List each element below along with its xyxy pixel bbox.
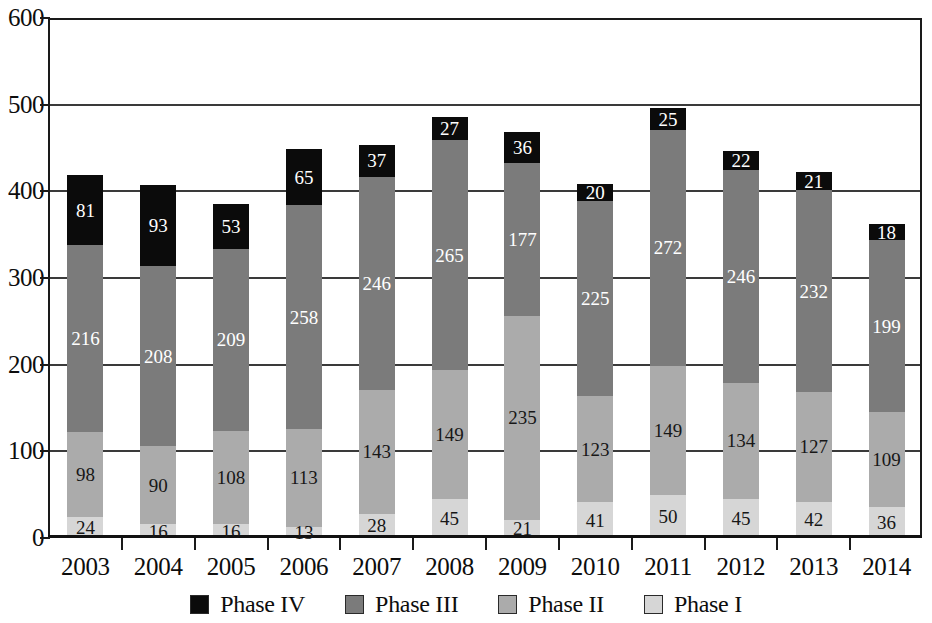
- y-tick-label: 600: [0, 5, 44, 30]
- bar-group[interactable]: 6525811313: [286, 149, 322, 538]
- bar-group[interactable]: 3724614328: [359, 145, 395, 538]
- bar-group[interactable]: 2527214950: [650, 108, 686, 538]
- bar-segment[interactable]: 41: [577, 502, 613, 538]
- bar-segment[interactable]: 27: [432, 117, 468, 140]
- y-tick-mark: [40, 104, 50, 106]
- bar-segment-value: 36: [877, 513, 896, 532]
- bar-segment-value: 22: [731, 151, 750, 170]
- bar-segment[interactable]: 216: [67, 245, 103, 432]
- bar-segment[interactable]: 134: [723, 383, 759, 499]
- legend-swatch: [190, 595, 209, 614]
- x-tick-mark: [631, 538, 633, 550]
- bar-segment[interactable]: 45: [723, 499, 759, 538]
- bar-segment[interactable]: 90: [140, 446, 176, 524]
- chart-legend: Phase IVPhase IIIPhase IIPhase I: [0, 588, 932, 620]
- plot-area: 8121698249320890165320910816652581131337…: [48, 18, 922, 538]
- legend-swatch: [498, 595, 517, 614]
- bar-segment[interactable]: 21: [796, 172, 832, 190]
- bar-segment-value: 232: [800, 282, 829, 301]
- y-axis-labels: 0100200300400500600: [0, 0, 44, 560]
- bar-group[interactable]: 812169824: [67, 175, 103, 538]
- y-tick-label: 300: [0, 265, 44, 290]
- bar-segment[interactable]: 22: [723, 151, 759, 170]
- bar-group[interactable]: 5320910816: [213, 204, 249, 539]
- bar-segment-value: 45: [731, 509, 750, 528]
- legend-swatch: [644, 595, 663, 614]
- legend-item[interactable]: Phase IV: [190, 592, 305, 616]
- y-tick-mark: [40, 17, 50, 19]
- bar-segment-value: 216: [71, 329, 100, 348]
- y-tick-label: 200: [0, 352, 44, 377]
- bar-segment-value: 42: [804, 510, 823, 529]
- bar-segment[interactable]: 50: [650, 495, 686, 538]
- y-tick-mark: [40, 450, 50, 452]
- bar-segment[interactable]: 65: [286, 149, 322, 205]
- bar-segment[interactable]: 208: [140, 266, 176, 446]
- bar-segment[interactable]: 143: [359, 390, 395, 514]
- x-tick-mark: [558, 538, 560, 550]
- bar-segment-value: 258: [290, 308, 319, 327]
- bar-segment-value: 235: [508, 408, 537, 427]
- bar-segment[interactable]: 265: [432, 140, 468, 370]
- bar-segment[interactable]: 42: [796, 502, 832, 538]
- bar-segment-value: 127: [800, 437, 829, 456]
- bar-group[interactable]: 932089016: [140, 185, 176, 538]
- bar-segment[interactable]: 113: [286, 429, 322, 527]
- legend-label: Phase II: [528, 592, 604, 616]
- legend-item[interactable]: Phase I: [644, 592, 742, 616]
- bar-segment[interactable]: 232: [796, 190, 832, 391]
- y-tick-label: 0: [0, 525, 44, 550]
- bar-segment-value: 28: [367, 516, 386, 535]
- bar-segment-value: 246: [727, 267, 756, 286]
- bar-segment-value: 149: [435, 425, 464, 444]
- bar-segment[interactable]: 272: [650, 130, 686, 366]
- x-axis-ticks: [48, 538, 922, 552]
- bar-segment[interactable]: 123: [577, 396, 613, 503]
- legend-item[interactable]: Phase III: [345, 592, 458, 616]
- bar-group[interactable]: 2022512341: [577, 184, 613, 538]
- bar-segment[interactable]: 209: [213, 249, 249, 430]
- bar-segment[interactable]: 149: [650, 366, 686, 495]
- bar-segment-value: 209: [217, 330, 246, 349]
- bar-segment[interactable]: 81: [67, 175, 103, 245]
- bar-segment[interactable]: 36: [869, 507, 905, 538]
- bar-segment-value: 20: [586, 183, 605, 202]
- bar-segment[interactable]: 258: [286, 205, 322, 429]
- stacked-bar-chart: 0100200300400500600 81216982493208901653…: [0, 0, 932, 623]
- bar-segment-value: 81: [76, 201, 95, 220]
- bar-segment[interactable]: 20: [577, 184, 613, 201]
- bar-group[interactable]: 2726514945: [432, 117, 468, 538]
- legend-item[interactable]: Phase II: [498, 592, 604, 616]
- bar-segment[interactable]: 45: [432, 499, 468, 538]
- bar-segment[interactable]: 149: [432, 370, 468, 499]
- bar-segment-value: 225: [581, 289, 610, 308]
- bar-segment-value: 208: [144, 347, 173, 366]
- bar-segment[interactable]: 177: [504, 163, 540, 316]
- bar-segment[interactable]: 93: [140, 185, 176, 266]
- bar-group[interactable]: 3617723521: [504, 132, 540, 538]
- bar-segment[interactable]: 109: [869, 412, 905, 506]
- bar-segment[interactable]: 199: [869, 240, 905, 412]
- y-tick-mark: [40, 277, 50, 279]
- bar-segment-value: 41: [586, 511, 605, 530]
- bar-segment[interactable]: 235: [504, 316, 540, 520]
- bar-segment[interactable]: 53: [213, 204, 249, 250]
- bar-segment[interactable]: 246: [359, 177, 395, 390]
- bar-segment[interactable]: 37: [359, 145, 395, 177]
- bar-segment-value: 27: [440, 119, 459, 138]
- bar-segment[interactable]: 246: [723, 170, 759, 383]
- bar-group[interactable]: 2224613445: [723, 151, 759, 538]
- bar-segment-value: 18: [877, 223, 896, 242]
- bar-segment[interactable]: 36: [504, 132, 540, 163]
- bar-segment[interactable]: 127: [796, 392, 832, 502]
- x-tick-mark: [339, 538, 341, 550]
- bar-segment[interactable]: 25: [650, 108, 686, 130]
- bar-segment[interactable]: 225: [577, 201, 613, 396]
- bar-segment[interactable]: 108: [213, 431, 249, 525]
- bar-group[interactable]: 2123212742: [796, 172, 832, 538]
- bar-segment-value: 90: [149, 476, 168, 495]
- bar-group[interactable]: 1819910936: [869, 224, 905, 538]
- bar-segment-value: 149: [654, 421, 683, 440]
- bar-segment[interactable]: 98: [67, 432, 103, 517]
- bar-segment[interactable]: 18: [869, 224, 905, 240]
